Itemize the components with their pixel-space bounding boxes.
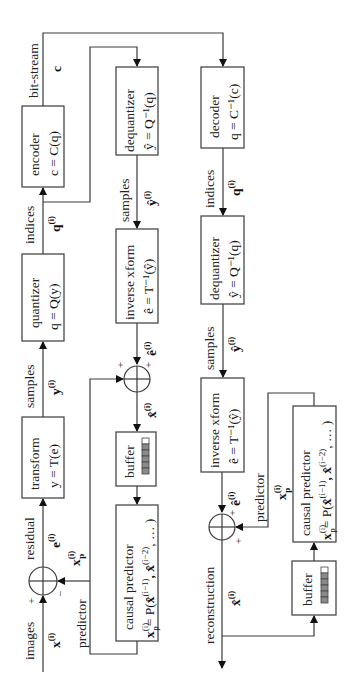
sum2-plus-top: + <box>142 362 154 368</box>
sum1-plus: + <box>25 598 37 604</box>
decoder-eq: q = C⁻¹(c) <box>226 84 241 140</box>
encoder-predictor-label: predictor <box>74 599 89 648</box>
decoder-recon-to-buffer-line <box>222 616 314 636</box>
reconstruction-label: reconstruction <box>202 567 217 644</box>
samples-symbol: y(i) <box>46 380 63 395</box>
encoder-predictor-symbol: x(i)p <box>66 551 86 566</box>
reconstruction-symbol: x̂(i) <box>226 591 243 606</box>
codec-diagram: images x(i) + − residual e(i) transform … <box>0 0 363 681</box>
encoder-inverse-eq: ê = T⁻¹(ŷ) <box>141 259 156 314</box>
decoder-dequantizer-title: dequantizer <box>207 237 222 300</box>
sum1-minus: − <box>54 591 66 597</box>
decoder-inv-out-symbol: ê(i) <box>226 492 243 507</box>
quantizer-eq: q = Q(y) <box>46 283 61 330</box>
decoder-predictor-label: predictor <box>252 473 267 522</box>
encoder-dequantizer-title: dequantizer <box>122 89 137 152</box>
decoder-indices-symbol: q(i) <box>226 180 243 196</box>
encoder-recon-symbol: x̂(i) <box>142 403 159 418</box>
decoder-sum-junction <box>209 514 235 540</box>
indices-symbol: q(i) <box>46 216 63 232</box>
encoder-title: encoder <box>27 133 42 176</box>
buffer-cells-icon <box>321 567 328 603</box>
decoder-title: decoder <box>207 95 222 138</box>
encoder-buffer-title: buffer <box>122 445 137 478</box>
decoder-sum-plus-top: + <box>226 510 238 516</box>
encoder-dq-samples-label: samples <box>117 179 132 223</box>
buffer-cells-icon <box>142 438 149 474</box>
residual-label: residual <box>22 517 37 560</box>
sum2-plus-left: + <box>114 362 126 368</box>
input-symbol: x(i) <box>46 633 63 648</box>
decoder-samples-symbol: ŷ(i) <box>226 337 243 352</box>
bitstream-label: bit-stream <box>26 43 41 98</box>
decoder-predictor-title: causal predictor <box>298 450 313 536</box>
decoder-indices-label: indices <box>202 170 217 208</box>
decoder-inverse-eq: ê = T⁻¹(ŷ) <box>226 409 241 464</box>
decoder-inverse-title: inverse xform <box>207 392 222 468</box>
encoder-inverse-title: inverse xform <box>122 244 137 320</box>
bitstream-symbol: c <box>49 66 64 72</box>
decoder-samples-label: samples <box>202 327 217 371</box>
decoder-dequantizer-eq: ŷ = Q⁻¹(q) <box>226 240 241 298</box>
transform-eq: y = T(e) <box>46 444 61 488</box>
encoder-predictor-title: causal predictor <box>121 544 136 630</box>
transform-title: transform <box>27 437 42 490</box>
encoder-recon-sum-junction <box>124 366 150 392</box>
indices-label: indices <box>22 206 37 244</box>
decoder-buffer-title: buffer <box>300 573 315 606</box>
samples-label: samples <box>22 365 37 409</box>
encoder-inv-out-symbol: ê(i) <box>142 342 159 357</box>
encoder-dq-samples-symbol: ŷ(i) <box>142 191 159 206</box>
residual-symbol: e(i) <box>46 534 63 549</box>
decoder-sum-plus-right: + <box>232 538 244 544</box>
encoder-dequantizer-eq: ŷ = Q⁻¹(q) <box>141 92 156 150</box>
decoder-predictor-symbol: x(i)p <box>272 485 292 500</box>
images-label: images <box>22 622 37 660</box>
quantizer-title: quantizer <box>27 277 42 328</box>
encoder-eq: c = C(q) <box>46 131 61 176</box>
encoder-sum-junction <box>29 567 57 595</box>
